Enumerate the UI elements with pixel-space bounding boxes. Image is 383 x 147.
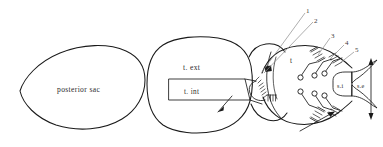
muscle-band-upper <box>310 47 325 62</box>
valve-knob-6 <box>322 93 327 98</box>
callout-label-5: 5 <box>355 46 359 54</box>
leader-line-1 <box>262 13 305 72</box>
callout-label-2: 2 <box>314 17 318 25</box>
range-arrow-head-top <box>369 58 374 65</box>
muscle-band-lower <box>310 107 325 122</box>
figure-canvas: posterior sac t. ext t. int t s.i s.e 1 … <box>0 0 383 147</box>
schematic-drawing: posterior sac t. ext t. int t s.i s.e 1 … <box>0 0 383 147</box>
valve-knob-1 <box>298 75 303 80</box>
valve-knob-5 <box>312 91 317 96</box>
callout-label-3: 3 <box>331 32 335 40</box>
leader-line-5 <box>340 52 354 63</box>
duct-tail-upper <box>245 79 256 81</box>
leader-line-3 <box>318 38 330 55</box>
label-chamber-t: t <box>290 57 292 65</box>
range-arrow-head-bottom <box>369 113 374 120</box>
chamber-hatch-marks <box>267 95 277 101</box>
neck-upper-curve <box>249 44 285 57</box>
valve-structures-lower <box>298 89 342 122</box>
valve-knob-4 <box>298 89 303 94</box>
label-posterior-sac: posterior sac <box>57 85 100 94</box>
tunica-interna-duct <box>169 79 250 100</box>
arrow-group <box>218 58 374 131</box>
callout-label-1: 1 <box>306 7 310 15</box>
label-siphon-internal: s.i <box>337 82 344 89</box>
valve-knob-2 <box>312 73 317 78</box>
inflow-arrow-shaft <box>218 96 232 112</box>
callout-label-4: 4 <box>345 39 349 47</box>
callout-leaders <box>262 13 354 73</box>
neck-striation-band <box>256 77 267 98</box>
label-tunica-externa: t. ext <box>183 63 201 72</box>
tunica-externa-group <box>147 37 262 133</box>
siphon-external-upper-lip <box>352 60 377 83</box>
valve-knob-3 <box>322 71 327 76</box>
label-tunica-interna: t. int <box>184 88 199 96</box>
leader-line-2 <box>264 22 313 73</box>
tunica-externa-outline <box>147 37 252 133</box>
label-siphon-external: s.e <box>357 82 365 89</box>
